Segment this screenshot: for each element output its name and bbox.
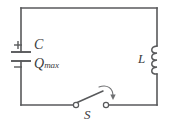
- capacitor-charge-label: Qmax: [34, 57, 59, 71]
- switch-label: S: [84, 108, 91, 121]
- switch-closing-arrow-icon: [99, 86, 116, 100]
- charge-subscript: max: [44, 60, 59, 70]
- switch-blade[interactable]: [76, 91, 103, 103]
- inductor-coil-icon: [152, 46, 157, 74]
- switch-terminal-left[interactable]: [73, 102, 78, 107]
- charge-symbol: Q: [34, 56, 44, 71]
- lc-circuit-diagram: C Qmax L S: [0, 0, 173, 129]
- capacitor-label: C: [34, 38, 43, 52]
- inductor-label: L: [138, 52, 145, 65]
- switch-terminal-right[interactable]: [103, 102, 108, 107]
